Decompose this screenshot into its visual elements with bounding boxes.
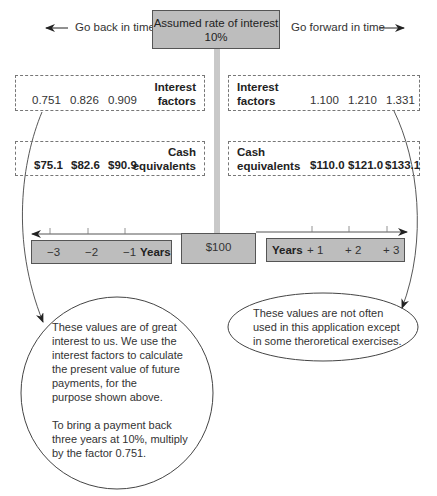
past-note-line: three years at 10%, multiply: [52, 432, 212, 446]
year-plus-1: + 1: [307, 244, 323, 256]
go-forward-label: Go forward in time: [291, 21, 385, 33]
past-factors-label: Interest factors: [154, 80, 196, 108]
past-cash-3: $75.1: [34, 159, 63, 171]
past-factors-box: 0.751 0.826 0.909 Interest factors: [15, 75, 205, 111]
past-note-line: by the factor 0.751.: [52, 446, 212, 460]
past-note-line: These values are of great: [52, 320, 212, 334]
future-cash-3: $133.1: [385, 159, 420, 171]
past-note-line: purpose shown above.: [52, 390, 212, 404]
future-factors-label-line2: factors: [237, 95, 275, 107]
present-value-box: $100: [181, 233, 256, 264]
past-factors-label-line2: factors: [158, 95, 196, 107]
rate-label: Assumed rate of interest: [153, 16, 279, 30]
past-cash-box: $75.1 $82.6 $90.9 Cash equivalents: [15, 141, 205, 176]
past-factors-label-line1: Interest: [154, 81, 196, 93]
past-note-line: To bring a payment back: [52, 418, 212, 432]
past-years-box: −3 −2 −1 Years: [31, 240, 172, 264]
future-factor-2: 1.210: [348, 94, 377, 106]
future-factor-3: 1.331: [386, 94, 415, 106]
future-cash-2: $121.0: [348, 159, 383, 171]
future-factors-label-line1: Interest: [237, 81, 279, 93]
year-minus-2: −2: [85, 246, 98, 258]
future-cash-label-line1: Cash: [237, 146, 265, 158]
past-factor-2: 0.826: [70, 94, 99, 106]
past-years-label: Years: [140, 246, 171, 258]
year-plus-3: + 3: [383, 244, 399, 256]
future-note-line: used in this application except: [253, 320, 423, 334]
past-note: These values are of great interest to us…: [52, 320, 212, 460]
future-cash-box: Cash equivalents $110.0 $121.0 $133.1: [228, 141, 420, 176]
center-pole: [215, 49, 219, 233]
go-back-label: Go back in time: [75, 21, 155, 33]
future-cash-label-line2: equivalents: [237, 160, 300, 172]
future-note: These values are not often used in this …: [253, 306, 423, 348]
year-minus-1: −1: [123, 246, 136, 258]
past-cash-label-line1: Cash: [168, 146, 196, 158]
year-minus-3: −3: [47, 246, 60, 258]
future-years-box: Years + 1 + 2 + 3: [266, 238, 405, 262]
past-cash-label-line2: equivalents: [133, 160, 196, 172]
year-plus-2: + 2: [345, 244, 361, 256]
future-cash-1: $110.0: [310, 159, 345, 171]
future-note-line: in some theroretical exercises.: [253, 334, 423, 348]
past-factor-1: 0.909: [108, 94, 137, 106]
past-note-line: payments, for the: [52, 376, 212, 390]
rate-box: Assumed rate of interest 10%: [152, 10, 280, 49]
past-note-line: interest factors to calculate: [52, 348, 212, 362]
past-factor-3: 0.751: [32, 94, 61, 106]
future-cash-label: Cash equivalents: [237, 145, 300, 173]
future-years-label: Years: [272, 244, 303, 256]
past-cash-label: Cash equivalents: [133, 145, 196, 173]
past-cash-2: $82.6: [71, 159, 100, 171]
rate-value: 10%: [153, 30, 279, 44]
future-note-line: These values are not often: [253, 306, 423, 320]
future-factors-label: Interest factors: [237, 80, 279, 108]
past-note-line: the present value of future: [52, 362, 212, 376]
future-factor-1: 1.100: [310, 94, 339, 106]
past-note-line: interest to us. We use the: [52, 334, 212, 348]
future-factors-box: Interest factors 1.100 1.210 1.331: [228, 75, 420, 111]
